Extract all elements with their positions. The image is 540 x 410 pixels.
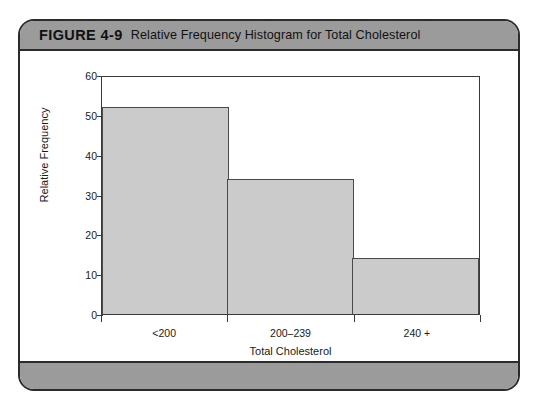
- y-axis-tick-label: 50: [71, 110, 97, 122]
- y-axis-title: Relative Frequency: [38, 85, 50, 225]
- figure-title: Relative Frequency Histogram for Total C…: [131, 28, 421, 42]
- x-axis-tick-label: 240 +: [404, 327, 431, 339]
- x-axis-tick-mark: [480, 315, 481, 322]
- histogram-chart: Relative Frequency 0102030405060 <200200…: [20, 51, 518, 361]
- histogram-bar: [227, 179, 354, 314]
- histogram-bar: [352, 258, 479, 314]
- x-axis-tick-mark: [101, 315, 102, 322]
- y-axis-tick-label: 10: [71, 269, 97, 281]
- y-axis-tick-label: 20: [71, 229, 97, 241]
- y-axis-tick-label: 40: [71, 150, 97, 162]
- figure-number-label: FIGURE 4-9: [39, 27, 123, 43]
- x-axis-tick-mark: [354, 315, 355, 322]
- x-axis-title: Total Cholesterol: [101, 345, 480, 357]
- x-axis-tick-mark: [227, 315, 228, 322]
- plot-area: [101, 76, 480, 315]
- y-axis-tick-label: 60: [71, 70, 97, 82]
- y-axis-ticks: 0102030405060: [67, 76, 97, 315]
- y-axis-tick-label: 30: [71, 190, 97, 202]
- figure-footer-band: [20, 361, 518, 389]
- x-axis-tick-label: <200: [152, 327, 176, 339]
- figure-body: Relative Frequency 0102030405060 <200200…: [20, 51, 518, 361]
- y-axis-tick-label: 0: [71, 309, 97, 321]
- x-axis-tick-label: 200–239: [270, 327, 311, 339]
- figure-header-band: FIGURE 4-9 Relative Frequency Histogram …: [20, 21, 518, 51]
- bars-layer: [102, 77, 479, 314]
- histogram-bar: [102, 107, 229, 314]
- figure-card: FIGURE 4-9 Relative Frequency Histogram …: [18, 19, 520, 391]
